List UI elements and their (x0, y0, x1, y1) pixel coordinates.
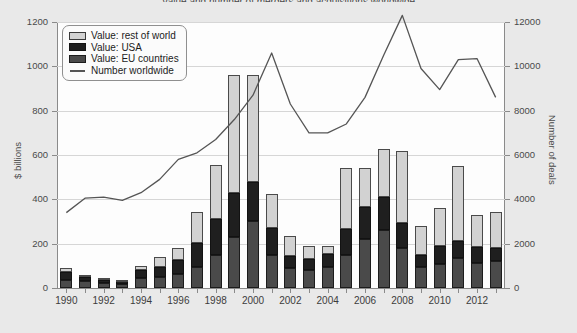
bar-2012 (471, 215, 483, 288)
bar-segment (266, 255, 278, 288)
x-axis-tick (104, 289, 105, 293)
bar-segment (247, 182, 259, 222)
legend-swatch-rest-of-world (69, 32, 86, 40)
bar-segment (415, 226, 427, 255)
bar-segment (452, 258, 464, 288)
bar-1990 (60, 268, 72, 288)
right-axis-tick (505, 288, 510, 289)
right-axis-tick-label: 0 (514, 282, 519, 293)
x-axis-tick (160, 289, 161, 293)
bar-segment (396, 223, 408, 248)
bar-segment (191, 243, 203, 267)
legend-item-label: Value: USA (91, 42, 142, 54)
bar-segment (79, 275, 91, 277)
bar-2010 (434, 208, 446, 288)
bar-segment (303, 259, 315, 270)
bar-segment (359, 168, 371, 207)
right-axis-tick-label: 4000 (514, 193, 535, 204)
left-axis-tick-label: 1200 (0, 16, 48, 27)
bar-segment (247, 221, 259, 288)
right-axis-tick-label: 2000 (514, 238, 535, 249)
bar-segment (191, 212, 203, 243)
left-axis-tick (52, 155, 57, 156)
bar-segment (415, 267, 427, 288)
x-axis-tick (253, 289, 254, 293)
bar-segment (210, 255, 222, 288)
bar-1995 (154, 257, 166, 288)
bar-2007 (378, 149, 390, 288)
x-axis-tick (141, 289, 142, 293)
right-axis-tick (505, 199, 510, 200)
bar-segment (284, 256, 296, 268)
bar-segment (359, 239, 371, 288)
legend-item-label: Value: rest of world (91, 30, 176, 42)
bar-1993 (116, 280, 128, 288)
right-axis-tick (505, 66, 510, 67)
x-axis-tick (290, 289, 291, 293)
bar-2006 (359, 168, 371, 288)
bar-segment (135, 278, 147, 288)
bar-segment (284, 268, 296, 288)
legend-item: Value: rest of world (69, 30, 179, 42)
bar-segment (378, 197, 390, 230)
bar-segment (247, 75, 259, 181)
x-axis-tick (178, 289, 179, 293)
bar-segment (60, 280, 72, 288)
x-axis-tick-label: 2012 (455, 295, 499, 306)
bar-segment (359, 207, 371, 239)
x-axis-tick (384, 289, 385, 293)
x-axis-tick (440, 289, 441, 293)
left-axis-tick-label: 1000 (0, 60, 48, 71)
legend-item: Value: USA (69, 42, 179, 54)
bar-segment (79, 281, 91, 288)
bar-1997 (191, 212, 203, 288)
x-axis-tick (328, 289, 329, 293)
bar-segment (490, 212, 502, 249)
bar-segment (284, 236, 296, 256)
bar-segment (210, 165, 222, 219)
bar-segment (191, 267, 203, 288)
bar-segment (228, 75, 240, 192)
bar-2004 (322, 246, 334, 288)
bar-segment (79, 277, 91, 281)
left-axis-tick (52, 111, 57, 112)
bar-segment (434, 246, 446, 264)
bar-1996 (172, 248, 184, 288)
bar-segment (60, 272, 72, 280)
bar-1994 (135, 266, 147, 288)
bar-segment (490, 261, 502, 288)
x-axis-tick (421, 289, 422, 293)
x-axis-tick (477, 289, 478, 293)
legend-line-number-worldwide (69, 66, 86, 74)
bar-segment (172, 248, 184, 260)
bar-segment (135, 266, 147, 270)
bar-segment (322, 254, 334, 267)
bar-segment (434, 264, 446, 288)
bar-2009 (415, 226, 427, 288)
bar-segment (154, 257, 166, 267)
x-axis-tick (346, 289, 347, 293)
x-axis-tick (85, 289, 86, 293)
bar-segment (340, 255, 352, 288)
bar-segment (266, 228, 278, 255)
bar-segment (452, 166, 464, 241)
gridline (57, 22, 505, 23)
right-axis-tick (505, 22, 510, 23)
bar-2000 (247, 75, 259, 288)
gridline (57, 111, 505, 112)
x-axis-tick (66, 289, 67, 293)
bar-segment (98, 280, 110, 283)
bar-segment (415, 255, 427, 267)
bar-segment (228, 237, 240, 288)
left-axis-tick (52, 66, 57, 67)
bar-segment (396, 248, 408, 288)
legend-item: Value: EU countries (69, 53, 179, 65)
bar-2002 (284, 236, 296, 288)
left-axis-tick-label: 200 (0, 238, 48, 249)
left-axis-tick-label: 800 (0, 105, 48, 116)
bar-segment (378, 230, 390, 288)
bar-segment (303, 246, 315, 259)
bar-1998 (210, 165, 222, 288)
bar-segment (172, 274, 184, 288)
x-axis-tick (496, 289, 497, 293)
